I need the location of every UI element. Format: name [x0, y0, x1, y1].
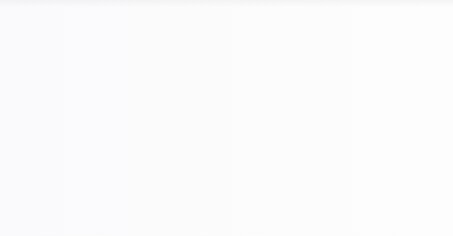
x-tick-mark [185, 188, 186, 193]
figure-graph-4-19: 90 80 70 60 50 40 30 20 10 0 [0, 0, 453, 236]
legend-swatch-icon [352, 106, 360, 114]
x-tick-mark [35, 188, 36, 193]
bar-group [35, 12, 335, 188]
x-tick-mark [335, 188, 336, 193]
x-label-good: Good [35, 194, 110, 206]
x-label-moderate: Moderate [110, 194, 185, 206]
y-tick-label: 90 [17, 7, 29, 18]
y-tick-label: 60 [17, 66, 29, 77]
legend-entry-label: no. of instances [365, 104, 442, 116]
bar-moderate[interactable] [131, 32, 164, 188]
x-tick-mark [110, 188, 111, 193]
y-tick-label: 40 [17, 105, 29, 116]
figure-caption: Graph 4.19Classification labels. [0, 209, 453, 223]
x-label-unclassified: unclassified [258, 194, 338, 206]
plot-area [35, 12, 335, 188]
y-tick-label: 50 [17, 85, 29, 96]
caption-label: Graph 4.19 [143, 209, 201, 223]
bar-good[interactable] [56, 151, 89, 188]
bar-chart: 90 80 70 60 50 40 30 20 10 0 [0, 0, 453, 200]
y-tick-label: 80 [17, 27, 29, 38]
x-label-poor: Poor [185, 194, 260, 206]
y-tick-label: 20 [17, 144, 29, 155]
y-tick-label: 70 [17, 46, 29, 57]
y-tick-label: 10 [17, 163, 29, 174]
y-tick-label: 0 [23, 183, 29, 194]
chart-legend: no. of instances [352, 104, 442, 116]
bar-poor[interactable] [206, 155, 239, 188]
caption-text: Classification labels. [210, 209, 310, 223]
bar-unclassified[interactable] [281, 184, 314, 188]
y-tick-label: 30 [17, 124, 29, 135]
x-tick-mark [260, 188, 261, 193]
y-axis-tick-labels: 90 80 70 60 50 40 30 20 10 0 [0, 0, 29, 200]
